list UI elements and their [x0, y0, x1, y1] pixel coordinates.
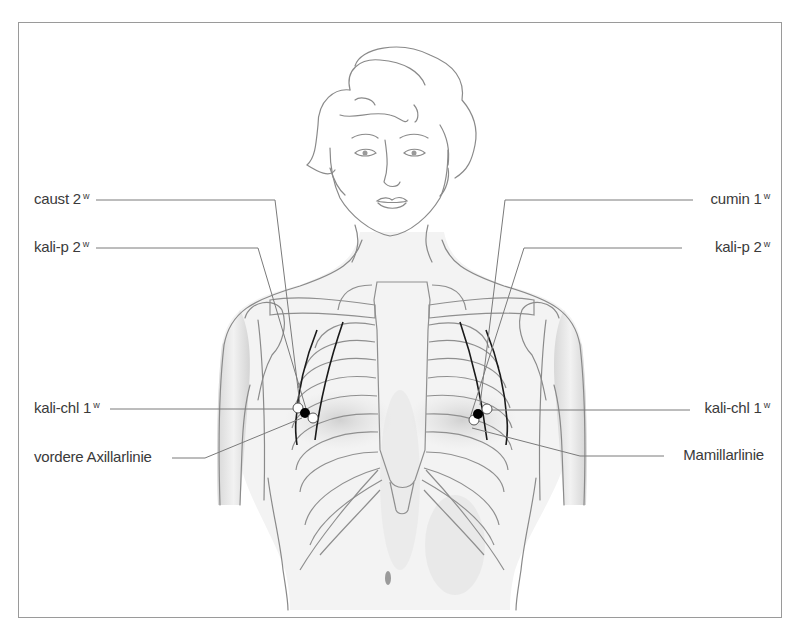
- label-cumin: cumin 1w: [711, 190, 770, 208]
- label-vordere-axillarlinie: vordere Axillarlinie: [34, 448, 152, 466]
- point-open-right-upper: [482, 404, 492, 414]
- point-filled-right: [473, 409, 483, 419]
- label-kali-p-right: kali-p 2w: [715, 238, 770, 256]
- head: [307, 47, 476, 262]
- label-mamillarlinie: Mamillarlinie: [683, 446, 764, 464]
- label-caust: caust 2w: [34, 190, 89, 208]
- body-silhouette: [217, 232, 587, 610]
- label-kali-chl-left: kali-chl 1w: [34, 399, 100, 417]
- label-kali-p-left: kali-p 2w: [34, 238, 89, 256]
- anatomy-illustration: [0, 0, 804, 644]
- label-kali-chl-right: kali-chl 1w: [705, 399, 771, 417]
- point-open-left-lower: [308, 413, 318, 423]
